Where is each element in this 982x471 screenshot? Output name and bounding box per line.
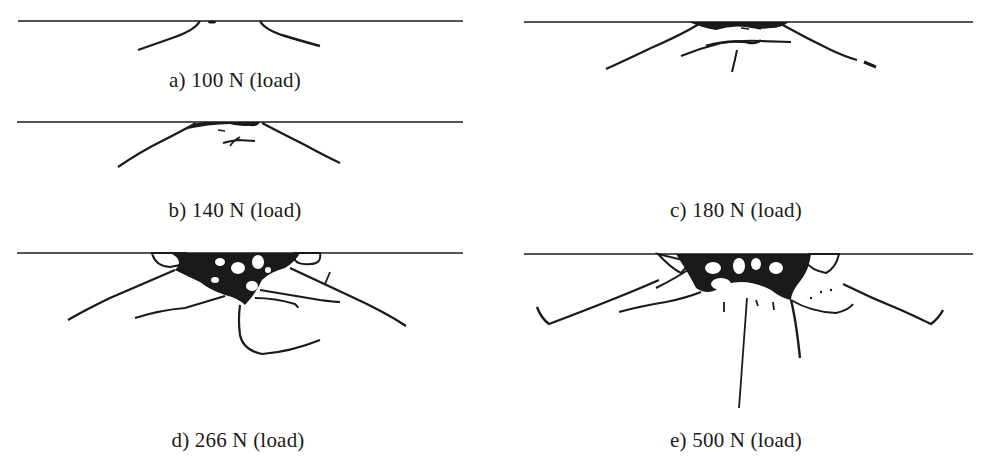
caption-b: b) 140 N (load) (168, 198, 301, 223)
caption-c: c) 180 N (load) (670, 198, 802, 223)
panel-d: d) 266 N (load) (0, 240, 491, 471)
panel-b: b) 140 N (load) (0, 110, 491, 235)
panel-e: e) 500 N (load) (491, 240, 982, 471)
caption-d: d) 266 N (load) (171, 428, 304, 453)
panel-c: c) 180 N (load) (491, 0, 982, 235)
caption-a: a) 100 N (load) (169, 68, 301, 93)
caption-e: e) 500 N (load) (670, 428, 802, 453)
panel-a: a) 100 N (load) (0, 0, 491, 110)
crack-diagram-a (0, 0, 491, 110)
